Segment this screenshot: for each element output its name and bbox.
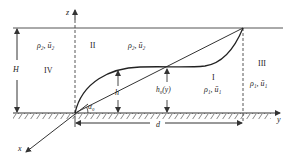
d-label: d	[155, 121, 161, 129]
region-IV-properties: ρ₂, ū₂	[37, 42, 54, 50]
z-axis-label: z	[66, 9, 69, 17]
ground-hatch	[13, 113, 271, 119]
region-II-properties: ρ₂, ū₂	[128, 42, 145, 50]
region-III-properties: ρ₁, ū₁	[250, 80, 267, 88]
x-axis-label: x	[18, 145, 22, 153]
region-II-label: II	[90, 42, 95, 50]
H-label: H	[13, 66, 19, 74]
region-I-label: I	[212, 74, 215, 82]
y-axis-label: y	[277, 116, 281, 124]
region-III-label: III	[258, 60, 266, 68]
angle-alpha0-label: α₀	[88, 103, 95, 111]
h-label: h	[115, 89, 119, 97]
region-IV-label: IV	[44, 67, 52, 75]
wedge-diagonal-line	[75, 28, 243, 113]
h0-label: h₀(y)	[156, 86, 171, 94]
region-I-properties: ρ₁, ū₁	[204, 86, 221, 94]
